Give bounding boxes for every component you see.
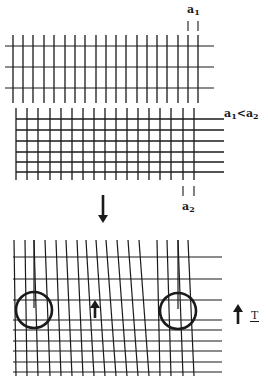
cmp-right-base: a bbox=[246, 107, 253, 120]
vertical-line bbox=[66, 240, 72, 376]
a1-sub: 1 bbox=[194, 7, 200, 17]
cmp-right-sub: 2 bbox=[253, 111, 259, 121]
a1-spacing-label: a1 bbox=[187, 4, 200, 16]
lattice-diagram bbox=[0, 0, 268, 384]
a2-sub: 2 bbox=[189, 204, 195, 214]
down-arrow-icon bbox=[98, 195, 108, 223]
vertical-line bbox=[188, 240, 194, 376]
cmp-operator: < bbox=[237, 107, 246, 120]
middle-grid-narrow-spacing bbox=[16, 108, 224, 196]
up-arrow-tension-head bbox=[233, 304, 243, 312]
vertical-line bbox=[25, 240, 27, 376]
vertical-line bbox=[139, 240, 149, 376]
vertical-line bbox=[106, 240, 116, 376]
top-grid-wide-spacing bbox=[5, 21, 214, 103]
bottom-grid-bonded-interface bbox=[13, 240, 243, 376]
vertical-line bbox=[128, 240, 138, 376]
tension-label: T bbox=[250, 309, 259, 322]
vertical-line bbox=[45, 240, 50, 376]
down-arrow-head bbox=[98, 215, 108, 223]
vertical-line bbox=[167, 240, 171, 376]
spacing-comparison-label: a1<a2 bbox=[224, 108, 259, 120]
vertical-line bbox=[117, 240, 127, 376]
vertical-line bbox=[178, 240, 183, 376]
vertical-line bbox=[56, 240, 61, 376]
vertical-line bbox=[77, 240, 83, 376]
up-arrow-inner-head bbox=[90, 300, 100, 308]
a2-spacing-label: a2 bbox=[182, 201, 195, 213]
